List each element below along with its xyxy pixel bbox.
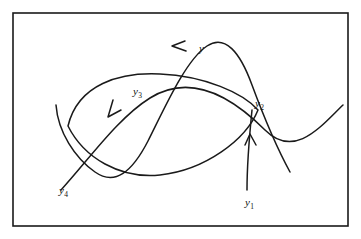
point-label-y2: y2 (255, 98, 264, 109)
point-label-y2-sub: 2 (260, 103, 264, 112)
point-label-y1: y1 (245, 197, 254, 208)
point-label-y1-sub: 1 (250, 202, 254, 211)
figure-canvas (0, 0, 361, 239)
curve-label-y: y (199, 43, 204, 54)
point-label-y4: y4 (59, 185, 68, 196)
point-label-y3: y3 (133, 86, 142, 97)
figure-container: y y3 y2 y4 y1 (0, 0, 361, 239)
point-label-y4-sub: 4 (64, 190, 68, 199)
curve-label-y-base: y (199, 42, 204, 54)
point-label-y3-sub: 3 (138, 91, 142, 100)
